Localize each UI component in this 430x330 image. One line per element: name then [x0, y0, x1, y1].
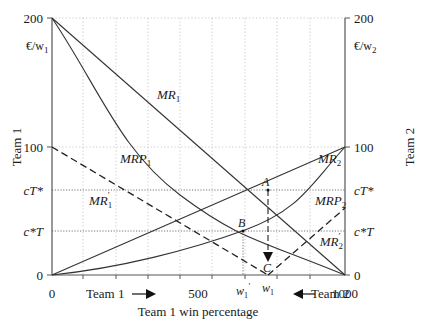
horizontal-gridlines	[52, 18, 345, 147]
point-B-label: B	[238, 216, 246, 230]
team1-axis-label: Team 1	[9, 128, 24, 166]
cTstar-label-left: cT*	[24, 183, 44, 198]
MR2prime-label: MR2′	[319, 231, 343, 251]
MR2-label: MR2	[317, 151, 341, 168]
y-tick-0-right: 0	[354, 268, 361, 283]
unit-right: €/w2	[354, 39, 377, 55]
w1-label: w1	[262, 281, 274, 297]
team2-axis-label: Team 2	[402, 128, 417, 166]
win-percentage-chart: 200 100 0 €/w1 Team 1 cT* c*T 200 100 0 …	[0, 0, 430, 330]
x-tick-0: 0	[49, 286, 56, 301]
y-tick-200-right: 200	[354, 11, 374, 26]
point-A-label: A	[261, 175, 270, 189]
x-axis-title: Team 1 win percentage	[138, 304, 259, 319]
y-tick-0-left: 0	[37, 268, 44, 283]
cTstar-label-right: cT*	[354, 183, 374, 198]
right-arrow-icon	[132, 289, 156, 299]
y-tick-100-right: 100	[354, 140, 374, 155]
MR1-label: MR1	[156, 87, 180, 104]
MR1-curve	[52, 18, 345, 275]
unit-left: €/w1	[26, 39, 49, 55]
point-C-label: C	[263, 261, 272, 275]
team1-direction-label: Team 1	[86, 286, 124, 301]
y-tick-200-left: 200	[24, 11, 44, 26]
vertical-gridlines	[83, 18, 310, 275]
MR1prime-label: MR1′	[88, 190, 112, 210]
MR2-curve	[52, 147, 345, 275]
cstarT-label-left: c*T	[24, 224, 44, 239]
w1prime-label: w1′	[236, 281, 251, 300]
team2-direction-label: Team 2	[311, 286, 349, 301]
cstarT-label-right: c*T	[354, 224, 374, 239]
MRP1-label: MRP1	[119, 151, 151, 168]
x-tick-500: 500	[188, 286, 208, 301]
MRP2-label: MRP2	[314, 193, 346, 210]
y-tick-100-left: 100	[24, 140, 44, 155]
